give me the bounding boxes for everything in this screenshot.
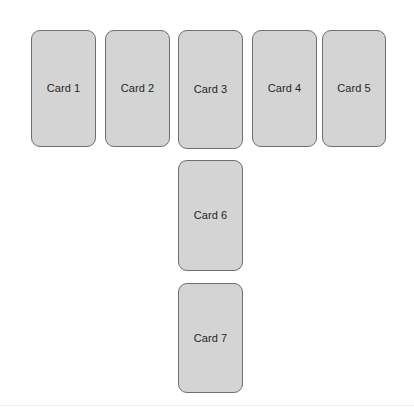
card-label: Card 1 — [47, 83, 81, 94]
card-item[interactable]: Card 1 — [31, 30, 96, 147]
card-label: Card 2 — [121, 83, 155, 94]
card-label: Card 6 — [194, 210, 228, 221]
card-label: Card 7 — [194, 333, 228, 344]
card-label: Card 5 — [337, 83, 371, 94]
card-item[interactable]: Card 6 — [178, 160, 243, 271]
card-label: Card 4 — [268, 83, 302, 94]
card-item[interactable]: Card 7 — [178, 283, 243, 393]
card-label: Card 3 — [194, 84, 228, 95]
card-item[interactable]: Card 4 — [252, 30, 317, 147]
footer-divider — [0, 405, 414, 406]
card-item[interactable]: Card 3 — [178, 30, 243, 149]
card-layout-canvas: Card 1 Card 2 Card 3 Card 4 Card 5 Card … — [0, 0, 414, 417]
card-item[interactable]: Card 2 — [105, 30, 170, 147]
card-item[interactable]: Card 5 — [322, 30, 386, 147]
